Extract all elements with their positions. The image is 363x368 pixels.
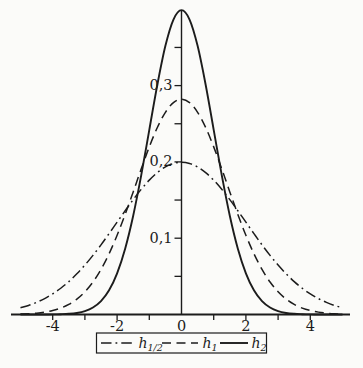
y-tick-label: 0,2 [149,153,172,169]
legend-label-h-half: h1/2 [139,335,163,353]
y-tick-label: 0,3 [149,77,172,93]
x-tick-label: 4 [306,318,315,334]
legend: h1/2h1h2 [97,333,267,353]
x-tick-label: -4 [46,318,60,334]
legend-label-h-1: h1 [203,335,218,353]
heat-kernel-plot: -4-20240,10,20,3h1/2h1h2 [0,0,363,368]
x-tick-label: -2 [110,318,124,334]
chart-canvas: -4-20240,10,20,3h1/2h1h2 [0,0,363,368]
y-tick-label: 0,1 [149,230,172,246]
x-tick-label: 2 [241,318,250,334]
x-tick-label: 0 [177,318,186,334]
legend-label-h-2: h2 [252,335,267,353]
